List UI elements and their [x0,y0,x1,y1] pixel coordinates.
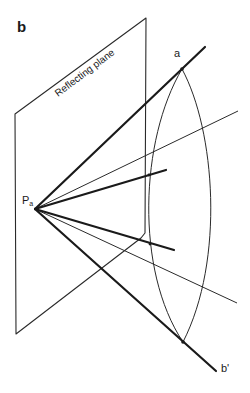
reflecting-plane [15,18,146,334]
source-label-subscript: a [29,200,33,207]
point-b-prime-label: b' [221,362,229,374]
plane-label: Reflecting plane [53,46,117,98]
diagram-canvas: b Reflecting plane Pa a b' [0,0,250,393]
point-a-label: a [174,47,181,59]
intersection-lower-dot [149,243,152,246]
point-a-dot [180,67,184,71]
reflection-diagram: b Reflecting plane Pa a b' [0,0,250,393]
intersection-upper-dot [148,174,151,177]
ray-lower-mid [35,209,174,250]
source-label-main: P [22,194,29,206]
arc-right [182,69,211,342]
source-label: Pa [22,194,33,207]
thin-ray-lower [35,209,237,303]
arc-left [149,69,183,342]
ray-to-b-prime [35,209,216,371]
panel-label: b [17,18,26,35]
point-b-prime-dot [181,340,185,344]
